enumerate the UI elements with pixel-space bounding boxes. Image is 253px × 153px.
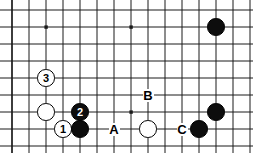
marker-b[interactable]: B bbox=[143, 89, 154, 102]
stone-black-move-2[interactable]: 2 bbox=[71, 103, 89, 121]
stone-white[interactable] bbox=[139, 120, 157, 138]
stone-white-move-1[interactable]: 1 bbox=[54, 120, 72, 138]
star-point bbox=[44, 25, 47, 28]
stone-black[interactable] bbox=[207, 103, 225, 121]
stone-black[interactable] bbox=[207, 18, 225, 36]
move-number-label: 1 bbox=[60, 124, 66, 135]
move-number-label: 3 bbox=[43, 73, 49, 84]
star-point bbox=[129, 110, 132, 113]
stone-black[interactable] bbox=[71, 120, 89, 138]
stone-black[interactable] bbox=[190, 120, 208, 138]
star-point bbox=[129, 25, 132, 28]
stone-white[interactable] bbox=[37, 103, 55, 121]
go-board-diagram: 321 ABC bbox=[0, 0, 253, 153]
marker-c[interactable]: C bbox=[177, 123, 188, 136]
marker-a[interactable]: A bbox=[109, 123, 120, 136]
stone-white-move-3[interactable]: 3 bbox=[37, 69, 55, 87]
move-number-label: 2 bbox=[77, 107, 83, 118]
